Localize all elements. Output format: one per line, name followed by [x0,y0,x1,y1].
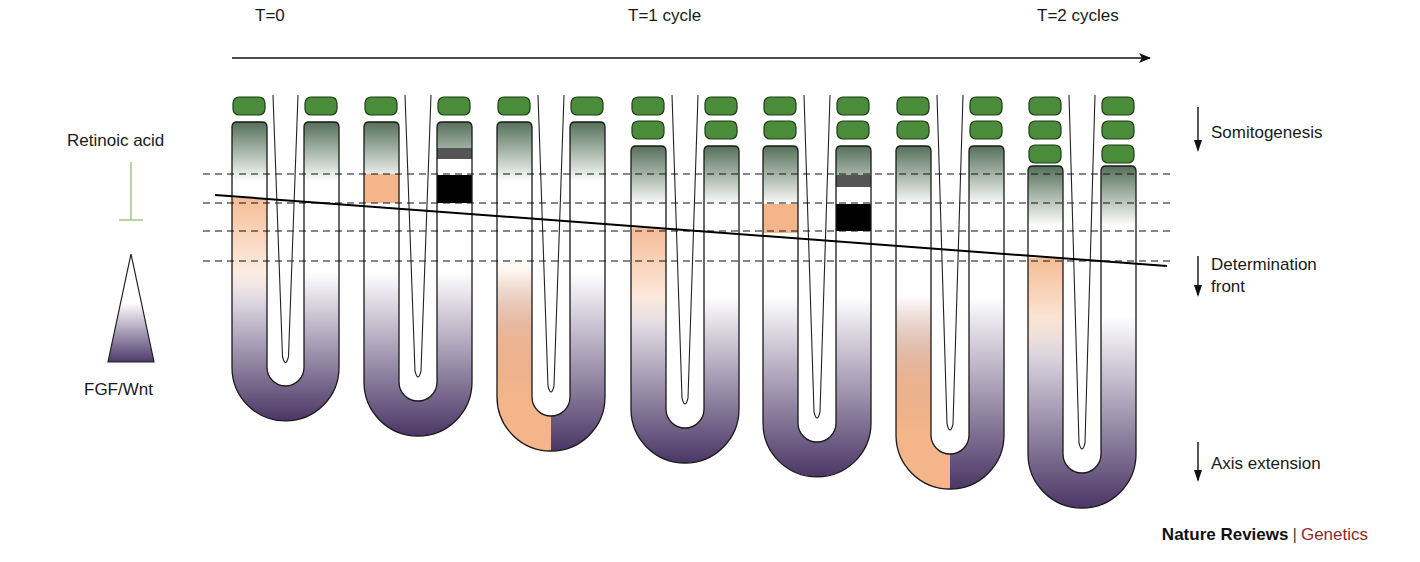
left-legend [108,162,154,362]
black-band [836,204,871,231]
somite [1029,145,1061,163]
somite [632,97,664,115]
neural-tube [538,95,564,392]
somite [1029,121,1061,139]
embryo-1 [232,95,339,421]
somite [498,97,530,115]
somite [233,97,265,115]
right-legend-arrows [1194,107,1202,482]
neural-tube [672,95,698,404]
somite [897,97,929,115]
orange-expression-gradient [631,228,666,330]
embryo-series [232,95,1136,508]
somite [705,97,737,115]
somite [970,121,1002,139]
orange-expression-gradient [232,198,267,300]
tail-orange-wave [896,295,950,435]
somite [571,97,603,115]
gray-band [437,148,472,159]
neural-tube [804,95,830,418]
neural-tube [405,95,431,377]
somitogenesis-diagram [0,0,1420,562]
embryo-4 [631,95,739,463]
neural-tube [273,95,298,363]
somite [1102,121,1134,139]
somite [970,97,1002,115]
orange-expression-band [763,204,798,233]
embryo-7 [1028,95,1136,508]
somite [1102,145,1134,163]
somite [1102,97,1134,115]
black-band [437,175,472,203]
somite [1029,97,1061,115]
gray-band [836,175,871,187]
somite [897,121,929,139]
embryo-5 [763,95,871,477]
neural-tube [1069,95,1095,449]
tail-orange-wave [497,257,551,397]
embryo-3 [497,95,605,453]
somite [305,97,337,115]
somite [632,121,664,139]
neural-tube [937,95,963,430]
orange-expression-band [364,174,399,203]
orange-expression-gradient [1028,258,1063,360]
overlay-lines [203,174,1170,266]
embryo-2 [364,95,472,436]
somite [837,97,869,115]
somite [837,121,869,139]
somite [705,121,737,139]
somite [764,121,796,139]
somite [365,97,397,115]
somite [764,97,796,115]
fgf-wnt-gradient-triangle [108,254,154,362]
somite [438,97,470,115]
embryo-6 [896,95,1004,491]
